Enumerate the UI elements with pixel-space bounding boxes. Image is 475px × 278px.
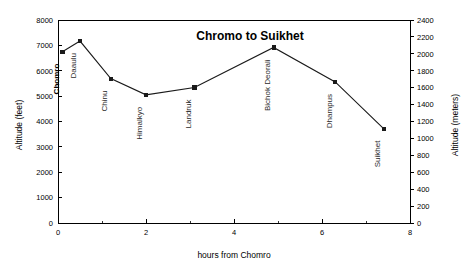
y-tick-label-left: 5000	[36, 92, 53, 101]
data-point-marker	[272, 45, 276, 49]
y-tick-label-left: 8000	[36, 16, 53, 25]
chart-title: Chromo to Suikhet	[196, 29, 303, 43]
data-point-label: Dhampus	[325, 94, 334, 128]
y-tick-label-right: 1600	[417, 83, 434, 92]
y-tick-label-right: 2400	[417, 16, 434, 25]
data-point-label: Landruk	[184, 99, 193, 129]
y-tick-label-right: 0	[417, 219, 421, 228]
y-tick-label-right: 1400	[417, 100, 434, 109]
y-tick-label-right: 2200	[417, 33, 434, 42]
y-tick-label-right: 1000	[417, 134, 434, 143]
y-tick-label-right: 400	[417, 185, 430, 194]
data-point-marker	[60, 50, 64, 54]
y-tick-label-left: 1000	[36, 193, 53, 202]
x-tick-label: 2	[144, 228, 148, 237]
data-point-marker	[192, 85, 196, 89]
y-tick-label-left: 2000	[36, 168, 53, 177]
x-tick-label: 0	[56, 228, 60, 237]
data-point-label: Chinu	[100, 91, 109, 112]
data-point-marker	[382, 127, 386, 131]
data-point-marker	[109, 77, 113, 81]
data-point-label: Chomro	[52, 64, 61, 95]
y-tick-label-left: 7000	[36, 41, 53, 50]
y-tick-label-right: 600	[417, 168, 430, 177]
y-tick-label-left: 3000	[36, 143, 53, 152]
data-point-marker	[144, 93, 148, 97]
data-point-label: Daaulu	[70, 53, 79, 78]
x-axis-label: hours from Chomro	[197, 250, 270, 260]
data-point-label: Bichok Deorali	[263, 59, 272, 111]
y-tick-label-left: 6000	[36, 67, 53, 76]
altitude-profile-chart: 02468 010002000300040005000600070008000 …	[0, 0, 475, 278]
y-tick-label-right: 2000	[417, 50, 434, 59]
y-tick-label-right: 200	[417, 202, 430, 211]
data-point-label: Suikhet	[373, 140, 382, 167]
data-point-label: Himalkyo	[136, 106, 145, 139]
data-point-marker	[333, 80, 337, 84]
y-tick-label-right: 1200	[417, 117, 434, 126]
data-point-marker	[78, 39, 82, 43]
x-tick-label: 8	[408, 228, 412, 237]
y-axis-right-label: Altitude (meters)	[450, 94, 460, 157]
y-tick-label-right: 1800	[417, 67, 434, 76]
y-axis-left-label: Altitude (feet)	[14, 100, 24, 151]
y-tick-label-left: 0	[49, 219, 53, 228]
y-tick-label-left: 4000	[36, 117, 53, 126]
chart-container: 02468 010002000300040005000600070008000 …	[0, 0, 475, 278]
x-tick-label: 6	[320, 228, 324, 237]
x-tick-label: 4	[232, 228, 236, 237]
y-tick-label-right: 800	[417, 151, 430, 160]
